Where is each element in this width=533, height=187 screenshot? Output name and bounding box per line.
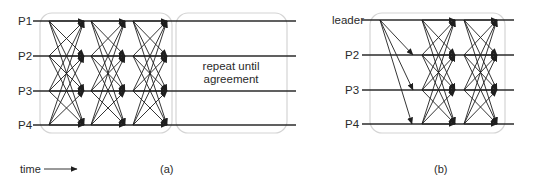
repeat-note-line2: agreement: [204, 73, 260, 85]
process-label-p1: P1: [18, 15, 32, 27]
process-label-p3: P3: [18, 85, 32, 97]
process-label-leader: leader: [332, 14, 364, 26]
process-label-p3-b: P3: [345, 84, 359, 96]
all-to-all-messages-b: [422, 20, 497, 124]
repeat-note-line1: repeat until: [203, 60, 260, 72]
all-to-all-messages-a: [49, 21, 167, 125]
process-label-p2-b: P2: [345, 49, 359, 61]
protocol-diagram: P1 P2 P3 P4 repeat until agreement time …: [0, 0, 533, 187]
diagram-b: leader P2 P3 P4 (b): [332, 13, 514, 175]
caption-b: (b): [434, 163, 447, 175]
time-label: time: [20, 163, 41, 175]
leader-to-p4-arrow: [380, 20, 412, 124]
diagram-a: P1 P2 P3 P4 repeat until agreement time …: [18, 13, 296, 175]
caption-a: (a): [160, 163, 173, 175]
process-label-p2: P2: [18, 50, 32, 62]
leader-broadcast-messages: [380, 20, 413, 124]
process-label-p4-b: P4: [345, 118, 360, 130]
process-label-p4: P4: [18, 119, 33, 131]
